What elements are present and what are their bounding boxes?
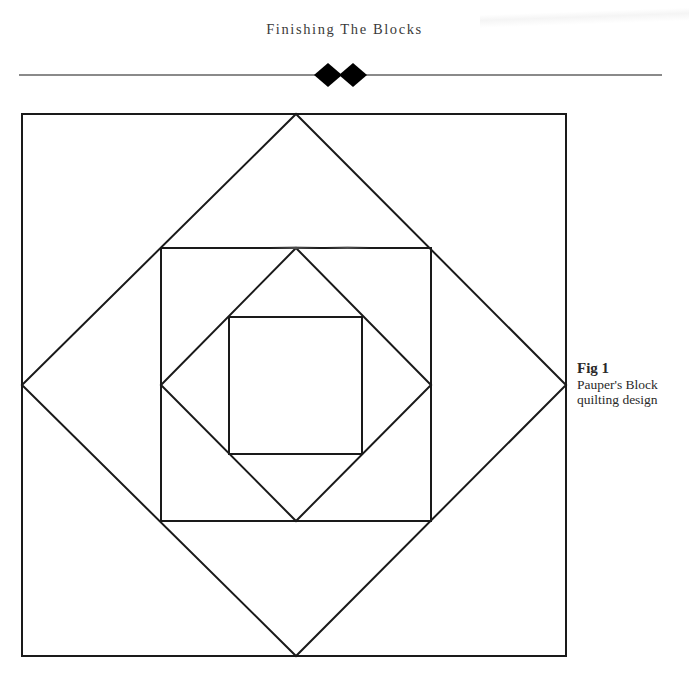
inner-square bbox=[229, 317, 362, 454]
middle-square bbox=[161, 248, 431, 521]
paupers-block-diagram bbox=[0, 0, 689, 682]
figure-description-line1: Pauper's Block bbox=[577, 377, 687, 392]
large-diamond bbox=[22, 114, 566, 656]
small-diamond bbox=[161, 248, 431, 521]
outer-square bbox=[22, 114, 566, 656]
figure-caption: Fig 1 Pauper's Block quilting design bbox=[577, 361, 687, 407]
print-smudge bbox=[270, 246, 320, 249]
print-smudge bbox=[325, 246, 370, 249]
figure-label: Fig 1 bbox=[577, 361, 687, 376]
figure-description-line2: quilting design bbox=[577, 392, 687, 407]
